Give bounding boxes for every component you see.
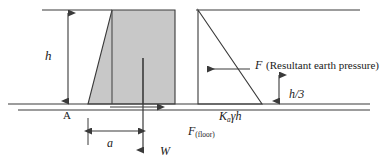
retaining-wall-diagram: h A a W F (Resultant earth pressure) h/3… — [0, 0, 388, 168]
base-pressure-K: K — [219, 109, 227, 123]
diagram-canvas — [0, 0, 388, 168]
weight-label: W — [160, 145, 170, 157]
height-label: h — [45, 49, 52, 62]
base-pressure-h: h — [235, 109, 241, 123]
pressure-distribution-triangle — [198, 10, 262, 104]
base-pressure-label: Kaγh — [219, 110, 241, 123]
floor-force-subscript: (floor) — [195, 130, 214, 139]
lever-arm-label: a — [107, 137, 113, 149]
base-point-label: A — [63, 110, 71, 121]
floor-force-label: F(floor) — [188, 125, 215, 138]
resultant-force-description: (Resultant earth pressure) — [266, 60, 379, 71]
wall-body — [88, 10, 175, 104]
resultant-force-label: F — [255, 59, 262, 71]
third-height-label: h/3 — [289, 88, 304, 100]
